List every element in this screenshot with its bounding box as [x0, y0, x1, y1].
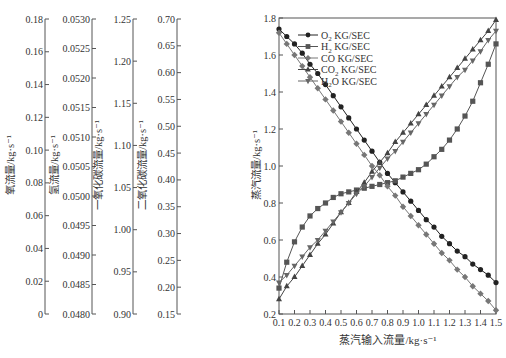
- tick-label: 0.15: [158, 309, 176, 320]
- extra-y-axis-3: 0.900.951.001.051.101.151.201.25一氧化碳流量/k…: [92, 14, 137, 320]
- y-tick-label: 1.8: [264, 13, 277, 24]
- legend-label: H2O KG/SEC: [321, 76, 377, 90]
- x-tick-label: 1.3: [459, 317, 472, 328]
- x-tick-label: 0.4: [319, 317, 332, 328]
- tick-label: 0: [38, 309, 43, 320]
- x-tick-label: 1.2: [443, 317, 456, 328]
- x-tick-label: 0.2: [288, 317, 301, 328]
- x-tick-label: 1.1: [428, 317, 441, 328]
- tick-label: 0.45: [158, 148, 176, 159]
- y-tick-label: 1.4: [264, 87, 277, 98]
- tick-label: 0.55: [158, 94, 176, 105]
- tick-label: 0.0520: [63, 73, 91, 84]
- series-h2o: [276, 29, 499, 286]
- extra-y-axes: 00.020.040.060.080.100.120.140.160.18氧流量…: [4, 14, 181, 320]
- x-tick-label: 0.8: [381, 317, 394, 328]
- tick-label: 0.0480: [63, 309, 91, 320]
- x-tick-label: 0.5: [335, 317, 348, 328]
- data-series: [276, 16, 499, 313]
- tick-label: 1.00: [114, 224, 132, 235]
- y-tick-label: 0.8: [264, 198, 277, 209]
- tick-label: 1.25: [114, 14, 132, 25]
- tick-label: 0.0525: [63, 43, 91, 54]
- tick-label: 0.65: [158, 40, 176, 51]
- y-tick-label: 1.0: [264, 161, 277, 172]
- tick-label: 0.0495: [63, 220, 91, 231]
- legend-label: CO KG/SEC: [321, 53, 373, 64]
- tick-label: 0.04: [26, 243, 44, 254]
- tick-label: 0.0530: [63, 14, 91, 25]
- tick-label: 1.15: [114, 98, 132, 109]
- x-axis-label: 蒸汽输入流量/kg·s⁻¹: [339, 333, 436, 346]
- x-tick-label: 0.6: [350, 317, 363, 328]
- extra-y-axis-label: 氢流量/kg·s⁻¹: [48, 135, 60, 195]
- tick-label: 0.14: [26, 79, 44, 90]
- extra-y-axis-label: 氧流量/kg·s⁻¹: [4, 135, 16, 195]
- tick-label: 0.95: [114, 266, 132, 277]
- x-tick-label: 1.5: [490, 317, 503, 328]
- tick-label: 0.02: [26, 276, 44, 287]
- tick-label: 1.20: [114, 56, 132, 67]
- multi-axis-line-chart: 00.020.040.060.080.100.120.140.160.18氧流量…: [0, 0, 506, 358]
- tick-label: 0.0510: [63, 132, 91, 143]
- tick-label: 0.0505: [63, 161, 91, 172]
- tick-label: 0.60: [158, 67, 176, 78]
- tick-label: 0.16: [26, 46, 44, 57]
- tick-label: 0.90: [114, 309, 132, 320]
- tick-label: 0.20: [158, 282, 176, 293]
- tick-label: 0.0485: [63, 279, 91, 290]
- tick-label: 0.50: [158, 121, 176, 132]
- tick-label: 0.30: [158, 228, 176, 239]
- tick-label: 1.05: [114, 182, 132, 193]
- tick-label: 0.10: [26, 145, 44, 156]
- y-axis-label: 蒸汽流量/kg·s⁻¹: [250, 130, 262, 200]
- tick-label: 0.08: [26, 177, 44, 188]
- tick-label: 0.0500: [63, 191, 91, 202]
- y-tick-label: 1.6: [264, 50, 277, 61]
- extra-y-axis-label: 一氧化碳流量/kg·s⁻¹: [92, 120, 104, 210]
- y-tick-label: 0.6: [264, 235, 277, 246]
- legend: O2 KG/SECH2 KG/SECCO KG/SECCO2 KG/SECH2O…: [298, 30, 377, 90]
- y-tick-label: 0.4: [264, 272, 277, 283]
- tick-label: 0.18: [26, 14, 44, 25]
- tick-label: 0.40: [158, 174, 176, 185]
- x-tick-label: 0.7: [366, 317, 379, 328]
- tick-label: 0.70: [158, 14, 176, 25]
- tick-label: 0.06: [26, 210, 44, 221]
- tick-label: 0.35: [158, 201, 176, 212]
- x-tick-label: 1.4: [474, 317, 487, 328]
- x-tick-label: 0.3: [304, 317, 317, 328]
- x-tick-label: 0.1: [273, 317, 286, 328]
- extra-y-axis-1: 00.020.040.060.080.100.120.140.160.18氧流量…: [4, 14, 49, 320]
- extra-y-axis-2: 0.04800.04850.04900.04950.05000.05050.05…: [48, 14, 96, 320]
- tick-label: 0.0515: [63, 102, 91, 113]
- tick-label: 0.0490: [63, 250, 91, 261]
- tick-label: 0.12: [26, 112, 44, 123]
- tick-label: 0.25: [158, 255, 176, 266]
- x-tick-label: 0.9: [397, 317, 410, 328]
- y-tick-label: 1.2: [264, 124, 277, 135]
- x-tick-label: 1.0: [412, 317, 425, 328]
- tick-label: 1.10: [114, 140, 132, 151]
- extra-y-axis-label: 二氧化碳流量/kg·s⁻¹: [136, 120, 148, 210]
- extra-y-axis-4: 0.150.200.250.300.350.400.450.500.550.60…: [136, 14, 181, 320]
